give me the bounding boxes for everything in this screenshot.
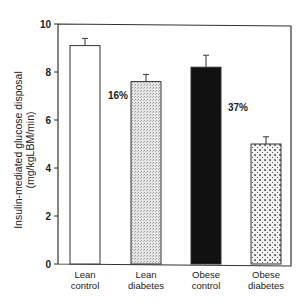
y-tick-label: 2	[45, 211, 51, 222]
x-category-label: diabetes	[128, 280, 164, 291]
y-tick-label: 8	[45, 67, 51, 78]
bar-lean-control	[70, 38, 100, 264]
y-tick-label: 4	[45, 163, 51, 174]
x-category-label: control	[71, 280, 100, 291]
x-category-label: diabetes	[248, 280, 284, 291]
x-category-label: Lean	[74, 269, 95, 280]
bar-obese-control	[191, 55, 221, 264]
y-axis: 0246810	[40, 19, 58, 270]
x-category-label: Obese	[252, 269, 280, 280]
bar-obese-diabetes	[251, 137, 281, 264]
annotations: 16%37%	[108, 90, 248, 113]
percent-annotation: 16%	[108, 90, 128, 101]
bar-chart: 0246810 LeancontrolLeandiabetesObesecont…	[0, 0, 301, 306]
bars	[70, 38, 281, 264]
bar-rect	[131, 82, 161, 264]
x-category-label: Obese	[192, 269, 220, 280]
bar-lean-diabetes	[131, 74, 161, 264]
percent-annotation: 37%	[228, 102, 248, 113]
x-category-label: Lean	[135, 269, 156, 280]
bar-rect	[251, 144, 281, 264]
x-axis-labels: LeancontrolLeandiabetesObesecontrolObese…	[71, 269, 284, 291]
y-tick-label: 10	[40, 19, 52, 30]
y-tick-label: 0	[45, 259, 51, 270]
y-axis-label: Insulin-mediated glucose disposal(mg/kgL…	[12, 71, 36, 229]
bar-rect	[191, 67, 221, 264]
y-tick-label: 6	[45, 115, 51, 126]
x-category-label: control	[192, 280, 221, 291]
bar-rect	[70, 46, 100, 264]
